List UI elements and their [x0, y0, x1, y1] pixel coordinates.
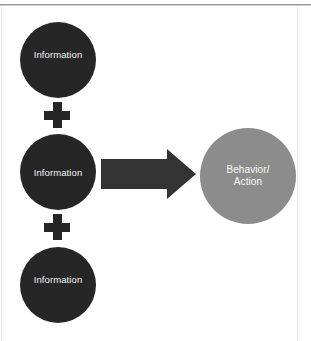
information-node-3-label: Information	[34, 274, 83, 285]
behavior-action-node: Behavior/ Action	[200, 128, 296, 224]
information-node-3: Information	[20, 247, 96, 323]
plus-icon-vertical-bar	[53, 102, 62, 128]
information-node-1: Information	[20, 22, 96, 98]
diagram-canvas: Information Information Information Beha…	[0, 0, 311, 341]
behavior-action-node-label: Behavior/ Action	[226, 164, 269, 188]
information-node-2: Information	[20, 134, 96, 210]
behavior-action-line-1: Behavior/	[226, 164, 269, 175]
plus-icon-vertical-bar	[53, 214, 62, 240]
plus-icon	[44, 102, 70, 128]
right-edge-line	[297, 6, 298, 341]
information-node-2-label: Information	[34, 167, 83, 178]
behavior-action-line-2: Action	[234, 176, 262, 187]
information-node-1-label: Information	[34, 49, 83, 60]
top-divider-line-soft	[0, 5, 311, 6]
right-arrow-icon	[101, 149, 197, 199]
left-edge-line	[1, 6, 2, 341]
plus-icon	[44, 214, 70, 240]
